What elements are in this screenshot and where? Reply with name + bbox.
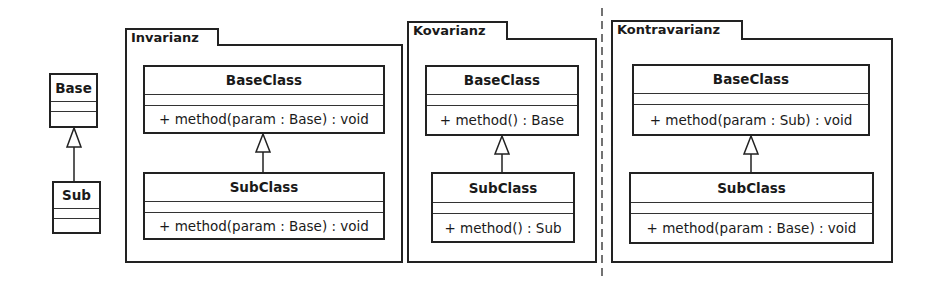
connectors-layer bbox=[0, 0, 938, 285]
generalization-arrow bbox=[495, 136, 509, 172]
generalization-arrow bbox=[744, 136, 758, 172]
generalization-arrow bbox=[256, 134, 270, 172]
generalization-arrow bbox=[67, 128, 81, 181]
